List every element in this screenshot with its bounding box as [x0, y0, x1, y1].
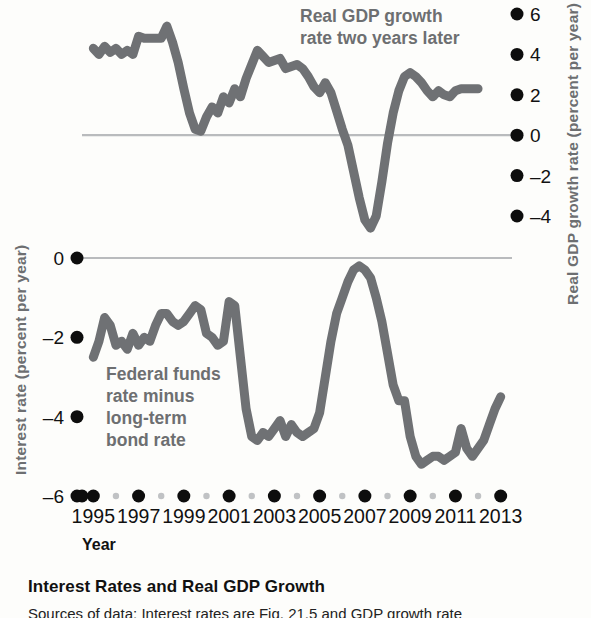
right-axis-ticks: 6420–2–4: [511, 4, 552, 227]
ffr-annotation: Federal funds rate minus long-term bond …: [106, 364, 221, 450]
interest-rates-gdp-chart: 6420–2–4 0–2–4–6 19951997199920012003200…: [0, 0, 591, 618]
ffr-annotation-line2: rate minus: [106, 386, 195, 406]
top-panel: [82, 26, 512, 228]
x-axis-year-label: 2001: [207, 505, 250, 527]
figure-caption-title: Interest Rates and Real GDP Growth: [28, 577, 325, 596]
right-tick-label: 4: [530, 44, 541, 65]
x-tick-dot-minor: [430, 493, 436, 499]
right-tick-label: 2: [530, 85, 541, 106]
left-tick-label: –2: [43, 327, 64, 348]
x-axis-year-label: 2007: [343, 505, 386, 527]
right-tick-dot: [511, 210, 524, 223]
gdp-annotation: Real GDP growth rate two years later: [300, 6, 460, 48]
x-tick-dot-minor: [384, 493, 390, 499]
left-tick-label: –4: [43, 407, 65, 428]
right-tick-label: 0: [530, 125, 541, 146]
right-tick-label: –4: [530, 206, 552, 227]
x-tick-dot-minor: [249, 493, 255, 499]
x-tick-dot-major: [313, 490, 326, 503]
x-axis-year-label: 2003: [253, 505, 296, 527]
x-tick-dot-major: [449, 490, 462, 503]
ffr-annotation-line1: Federal funds: [106, 364, 221, 384]
x-axis-year-labels: 1995199719992001200320052007200920112013: [72, 505, 523, 527]
x-tick-dot-major: [177, 490, 190, 503]
x-axis-year-label: 2005: [298, 505, 342, 527]
x-axis-year-label: 1997: [117, 505, 160, 527]
x-axis-year-label: 1999: [162, 505, 205, 527]
left-axis-title: Interest rate (percent per year): [12, 245, 29, 475]
gdp-annotation-line2: rate two years later: [300, 28, 460, 48]
x-tick-dot-minor: [339, 493, 345, 499]
right-tick-dot: [511, 8, 524, 21]
x-axis-year-label: 2009: [388, 505, 431, 527]
left-tick-label: 0: [53, 248, 64, 269]
left-tick-label: –6: [43, 486, 64, 507]
x-tick-dot-minor: [294, 493, 300, 499]
ffr-annotation-line4: bond rate: [106, 430, 186, 450]
x-tick-dot-minor: [158, 493, 164, 499]
x-tick-dot-minor: [203, 493, 209, 499]
gdp-annotation-line1: Real GDP growth: [300, 6, 443, 26]
right-tick-dot: [511, 129, 524, 142]
ffr-annotation-line3: long-term: [106, 408, 187, 428]
figure-caption-source: Sources of data: Interest rates are Fig.…: [28, 606, 591, 618]
x-tick-dot-major: [223, 490, 236, 503]
x-tick-dot-major: [404, 490, 417, 503]
gdp-growth-line: [93, 26, 478, 228]
x-tick-dot-major: [76, 490, 89, 503]
x-tick-dot-major: [494, 490, 507, 503]
x-axis-year-label: 2013: [479, 505, 522, 527]
left-tick-dot: [71, 410, 84, 423]
x-tick-dot-major: [132, 490, 145, 503]
left-axis-ticks: 0–2–4–6: [43, 248, 84, 507]
x-tick-dot-major: [358, 490, 371, 503]
x-tick-dot-minor: [113, 493, 119, 499]
x-tick-dot-major: [268, 490, 281, 503]
right-tick-dot: [511, 88, 524, 101]
left-tick-dot: [71, 252, 84, 265]
left-tick-dot: [71, 331, 84, 344]
figure-caption-source-clip: Sources of data: Interest rates are Fig.…: [0, 606, 591, 618]
x-tick-dot-minor: [475, 493, 481, 499]
right-tick-label: 6: [530, 4, 541, 25]
x-axis-title: Year: [82, 536, 116, 553]
x-axis-year-label: 1995: [72, 505, 116, 527]
x-tick-dot-major: [87, 490, 100, 503]
right-tick-dot: [511, 169, 524, 182]
right-axis-title: Real GDP growth rate (percent per year): [564, 3, 581, 305]
x-axis-tick-dots: [76, 490, 508, 503]
x-axis-year-label: 2011: [434, 505, 476, 527]
right-tick-label: –2: [530, 166, 551, 187]
figure-container: 6420–2–4 0–2–4–6 19951997199920012003200…: [0, 0, 591, 618]
right-tick-dot: [511, 48, 524, 61]
